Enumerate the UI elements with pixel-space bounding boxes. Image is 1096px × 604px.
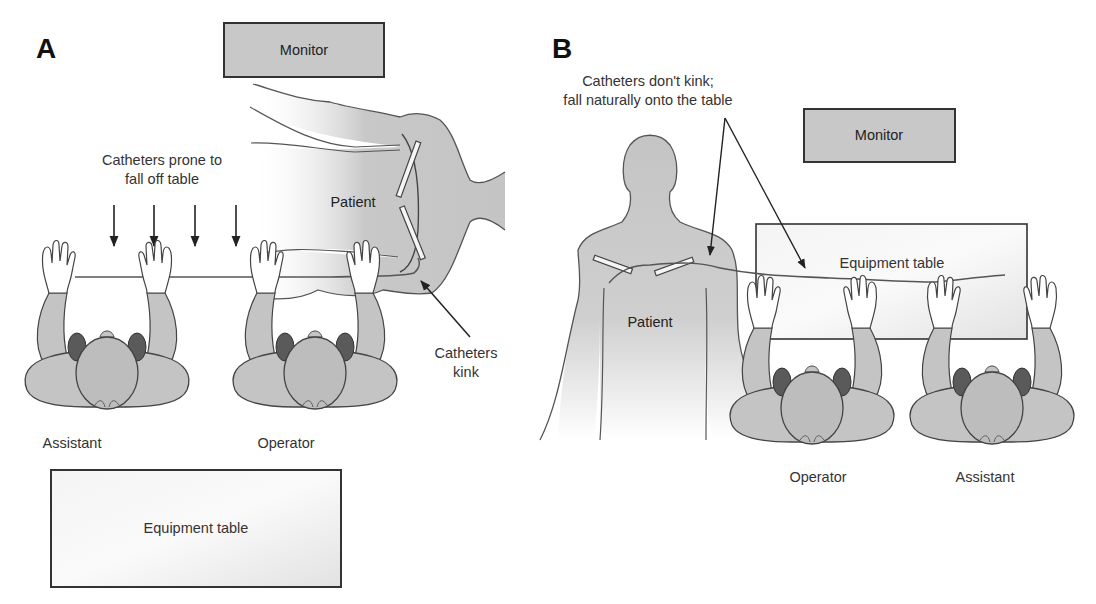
svg-text:Monitor: Monitor: [855, 127, 904, 143]
patient-b: Patient: [540, 135, 770, 440]
svg-text:Operator: Operator: [789, 469, 846, 485]
monitor-a: Monitor: [224, 23, 384, 77]
panel-b-label: B: [552, 33, 572, 64]
svg-text:fall off table: fall off table: [125, 171, 199, 187]
staff-assistant-a: Assistant: [25, 241, 189, 452]
svg-text:fall naturally onto the table: fall naturally onto the table: [563, 92, 732, 108]
svg-text:Equipment table: Equipment table: [144, 520, 249, 536]
svg-text:Patient: Patient: [627, 314, 672, 330]
note-fall-off-table: Catheters prone to fall off table: [102, 152, 236, 246]
patient-a-label: Patient: [330, 194, 375, 210]
svg-text:Assistant: Assistant: [43, 435, 102, 451]
pointer-arrow-icon: [710, 118, 725, 255]
svg-text:Catheters: Catheters: [435, 345, 498, 361]
svg-text:Catheters don't kink;: Catheters don't kink;: [582, 73, 714, 89]
note-catheters-kink: Catheters kink: [421, 281, 497, 380]
diagram-canvas: A Monitor Patient Catheters prone to f: [0, 0, 1096, 604]
panel-a: A Monitor Patient Catheters prone to f: [25, 23, 505, 587]
svg-text:Assistant: Assistant: [956, 469, 1015, 485]
equipment-table-a: Equipment table: [51, 470, 341, 587]
svg-text:Operator: Operator: [257, 435, 314, 451]
note-no-kink: Catheters don't kink; fall naturally ont…: [563, 73, 732, 108]
pointer-arrow-icon: [421, 281, 470, 337]
svg-text:Catheters prone to: Catheters prone to: [102, 152, 222, 168]
panel-b: B Catheters don't kink; fall naturally o…: [540, 33, 1074, 485]
svg-text:kink: kink: [453, 364, 480, 380]
panel-a-label: A: [36, 33, 56, 64]
monitor-b: Monitor: [804, 109, 955, 162]
monitor-a-label: Monitor: [280, 42, 329, 58]
svg-text:Equipment table: Equipment table: [840, 255, 945, 271]
